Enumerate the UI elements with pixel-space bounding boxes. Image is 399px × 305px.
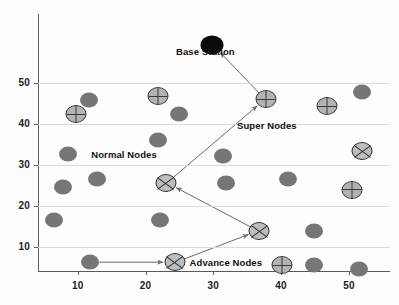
gridline-y [38,206,390,207]
annotation-advance-nodes: Advance Nodes [190,257,263,268]
y-axis-line [38,14,39,272]
gridline-y [38,124,390,125]
node-normal [45,213,63,228]
x-tick-label: 40 [266,280,296,291]
node-normal [305,224,323,239]
x-tick-label: 10 [63,280,93,291]
annotation-super-nodes: Super Nodes [237,120,297,131]
node-advance [352,142,373,160]
network-topology-figure: 10203040501020304050 Base StationSuper N… [0,0,399,305]
x-tick-mark [349,271,350,275]
node-super [147,87,168,105]
x-tick-label: 20 [131,280,161,291]
node-normal [151,213,169,228]
node-normal [149,132,167,147]
y-tick-label: 30 [4,159,30,170]
x-tick-mark [78,271,79,275]
node-normal [80,93,98,108]
annotation-normal-nodes: Normal Nodes [91,149,157,160]
node-super [317,97,338,115]
node-normal [59,146,77,161]
annotation-base-station: Base Station [176,46,235,57]
node-super [272,256,293,274]
y-tick-label: 50 [4,77,30,88]
y-tick-mark [34,247,38,248]
y-tick-label: 20 [4,200,30,211]
node-normal [350,261,368,276]
y-tick-label: 10 [4,241,30,252]
y-tick-mark [34,165,38,166]
gridline-y [38,165,390,166]
node-normal [214,148,232,163]
node-normal [305,258,323,273]
node-normal [170,107,188,122]
node-advance [155,174,176,192]
y-tick-mark [34,83,38,84]
y-tick-mark [34,124,38,125]
node-normal [54,180,72,195]
node-normal [217,176,235,191]
node-normal [88,171,106,186]
gridline-y [38,83,390,84]
node-super [342,181,363,199]
node-super [256,90,277,108]
node-normal [81,255,99,270]
x-tick-mark [146,271,147,275]
x-tick-label: 50 [334,280,364,291]
node-advance [164,253,185,271]
node-normal [279,171,297,186]
node-normal [353,85,371,100]
node-advance [249,222,270,240]
gridline-y [38,247,390,248]
node-super [66,105,87,123]
y-tick-mark [34,206,38,207]
x-tick-label: 30 [198,280,228,291]
x-tick-mark [213,271,214,275]
y-tick-label: 40 [4,118,30,129]
